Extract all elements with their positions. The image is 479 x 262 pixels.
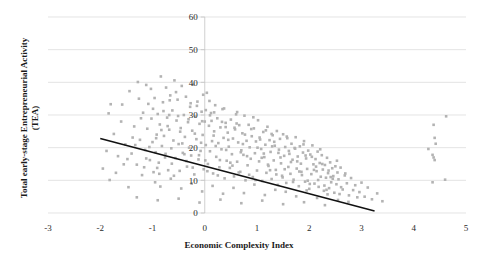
scatter-point xyxy=(336,171,339,174)
scatter-point xyxy=(136,196,139,199)
scatter-point xyxy=(149,159,152,162)
y-tick-label-60: 60 xyxy=(189,12,199,22)
y-tick-label-30: 30 xyxy=(189,110,199,120)
scatter-point xyxy=(227,139,230,142)
scatter-point xyxy=(266,125,269,128)
x-tick-label-3: 3 xyxy=(359,223,364,233)
scatter-point xyxy=(327,172,330,175)
scatter-point xyxy=(213,111,216,114)
scatter-point xyxy=(431,181,434,184)
scatter-point xyxy=(173,79,176,82)
scatter-point xyxy=(352,189,355,192)
scatter-point xyxy=(323,189,326,192)
scatter-point xyxy=(168,114,171,117)
scatter-point xyxy=(121,103,124,106)
scatter-point xyxy=(197,158,200,161)
scatter-point xyxy=(309,153,312,156)
scatter-point xyxy=(167,169,170,172)
scatter-point xyxy=(235,122,238,125)
scatter-point xyxy=(204,144,207,147)
scatter-point xyxy=(246,164,249,167)
scatter-point xyxy=(287,166,290,169)
scatter-point xyxy=(183,153,186,156)
scatter-point xyxy=(311,144,314,147)
scatter-point xyxy=(295,167,298,170)
scatter-point xyxy=(138,97,141,100)
y-tick-label-20: 20 xyxy=(189,143,199,153)
scatter-point xyxy=(427,148,430,151)
scatter-point xyxy=(272,159,275,162)
scatter-point xyxy=(145,157,148,160)
scatter-point xyxy=(233,126,236,129)
scatter-point xyxy=(433,137,436,140)
scatter-point xyxy=(152,107,155,110)
scatter-point xyxy=(265,172,268,175)
scatter-point xyxy=(221,121,224,124)
scatter-point xyxy=(179,130,182,133)
x-tick-label--1: -1 xyxy=(149,223,157,233)
scatter-point xyxy=(198,123,201,126)
scatter-point xyxy=(264,143,267,146)
scatter-point xyxy=(273,140,276,143)
scatter-point xyxy=(159,185,162,188)
scatter-point xyxy=(157,161,160,164)
scatter-point xyxy=(258,160,261,163)
scatter-point xyxy=(252,116,255,119)
scatter-point xyxy=(196,105,199,108)
scatter-point xyxy=(280,162,283,165)
scatter-point xyxy=(212,172,215,175)
scatter-point xyxy=(137,81,140,84)
scatter-point xyxy=(240,202,243,205)
scatter-point xyxy=(279,138,282,141)
scatter-point xyxy=(232,137,235,140)
scatter-point xyxy=(244,133,247,136)
scatter-point xyxy=(282,203,285,206)
scatter-point xyxy=(242,154,245,157)
scatter-point xyxy=(212,134,215,137)
scatter-point xyxy=(302,143,305,146)
scatter-point xyxy=(323,184,326,187)
scatter-point xyxy=(243,192,246,195)
scatter-point xyxy=(294,136,297,139)
scatter-point xyxy=(141,174,144,177)
scatter-point xyxy=(296,160,299,163)
x-tick-label-2: 2 xyxy=(307,223,312,233)
scatter-point xyxy=(256,169,259,172)
scatter-point xyxy=(160,129,163,132)
scatter-point xyxy=(165,86,168,89)
scatter-point xyxy=(147,103,150,106)
scatter-point xyxy=(237,141,240,144)
scatter-point xyxy=(183,114,186,117)
scatter-point xyxy=(178,170,181,173)
scatter-point xyxy=(230,118,233,121)
scatter-point xyxy=(328,187,331,190)
scatter-point xyxy=(285,135,288,138)
scatter-point xyxy=(209,114,212,117)
scatter-point xyxy=(206,91,209,94)
scatter-point xyxy=(163,135,166,138)
scatter-point xyxy=(222,137,225,140)
scatter-point xyxy=(327,169,330,172)
scatter-point xyxy=(196,100,199,103)
scatter-point xyxy=(185,95,188,98)
scatter-point xyxy=(150,117,153,120)
scatter-point xyxy=(226,131,229,134)
scatter-point xyxy=(223,107,226,110)
scatter-point xyxy=(191,166,194,169)
scatter-point xyxy=(290,142,293,145)
scatter-point xyxy=(238,124,241,127)
scatter-point xyxy=(290,161,293,164)
scatter-point xyxy=(322,168,325,171)
scatter-point xyxy=(276,130,279,133)
scatter-point xyxy=(187,121,190,124)
scatter-point xyxy=(284,146,287,149)
scatter-point xyxy=(127,186,130,189)
scatter-point xyxy=(208,100,211,103)
scatter-point xyxy=(156,199,159,202)
scatter-point xyxy=(310,173,313,176)
scatter-point xyxy=(307,149,310,152)
scatter-point xyxy=(189,106,192,109)
scatter-point xyxy=(319,148,322,151)
scatter-point xyxy=(161,145,164,148)
scatter-point xyxy=(159,123,162,126)
